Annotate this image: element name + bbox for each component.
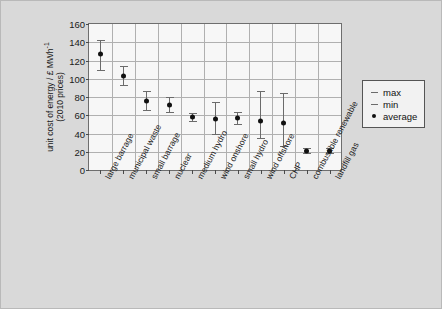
x-tick-mark	[330, 170, 331, 174]
y-tick-mark	[86, 24, 89, 25]
x-tick-mark	[100, 170, 101, 174]
error-bar-cap-min	[143, 110, 151, 111]
error-bar-cap-min	[189, 121, 197, 122]
legend: maxminaverage	[362, 80, 425, 128]
y-tick-label: 60	[74, 110, 85, 121]
legend-item: max	[368, 86, 417, 98]
average-marker	[213, 116, 218, 121]
y-tick-label: 40	[74, 128, 85, 139]
y-tick-mark	[86, 152, 89, 153]
x-tick-mark	[284, 170, 285, 174]
average-marker	[235, 115, 240, 120]
error-bar	[260, 91, 261, 138]
x-tick-mark	[261, 170, 262, 174]
y-tick-label: 160	[69, 19, 85, 30]
average-marker	[281, 121, 286, 126]
error-bar-cap-min	[97, 70, 105, 71]
error-bar-cap-max	[143, 91, 151, 92]
legend-label: min	[383, 99, 398, 110]
legend-label: average	[383, 111, 417, 122]
average-marker	[167, 103, 172, 108]
y-axis-title-exponent: -1	[43, 42, 50, 48]
x-tick-mark	[123, 170, 124, 174]
x-tick-mark	[307, 170, 308, 174]
legend-item: min	[368, 98, 417, 110]
error-bar-cap-max	[280, 93, 288, 94]
x-tick-mark	[215, 170, 216, 174]
average-marker	[144, 98, 149, 103]
x-tick-mark	[146, 170, 147, 174]
y-axis-title-line1: unit cost of energy / £ MWh	[45, 48, 55, 151]
y-axis-title: unit cost of energy / £ MWh-1 (2010 pric…	[43, 22, 66, 172]
error-bar-cap-max	[212, 102, 220, 103]
y-tick-label: 120	[69, 55, 85, 66]
error-bar-cap-max	[97, 40, 105, 41]
error-bar-cap-min	[166, 112, 174, 113]
error-bar-cap-max	[166, 97, 174, 98]
y-tick-mark	[86, 134, 89, 135]
y-tick-label: 100	[69, 73, 85, 84]
y-tick-mark	[86, 115, 89, 116]
y-tick-label: 20	[74, 146, 85, 157]
y-tick-label: 140	[69, 37, 85, 48]
average-marker	[121, 74, 126, 79]
y-tick-label: 80	[74, 92, 85, 103]
y-axis-title-line2: (2010 prices)	[56, 72, 66, 122]
legend-item: average	[368, 110, 417, 122]
y-tick-label: 0	[80, 165, 85, 176]
y-tick-mark	[86, 170, 89, 171]
y-tick-mark	[86, 61, 89, 62]
plot-area: unit cost of energy / £ MWh-1 (2010 pric…	[88, 23, 342, 171]
x-tick-mark	[238, 170, 239, 174]
y-tick-mark	[86, 97, 89, 98]
average-marker	[98, 52, 103, 57]
error-bar-cap-max	[257, 91, 265, 92]
dash-icon	[368, 92, 380, 93]
x-tick-mark	[169, 170, 170, 174]
average-marker	[258, 118, 263, 123]
dot-icon	[368, 114, 380, 118]
dash-icon	[368, 104, 380, 105]
average-marker	[304, 148, 309, 153]
error-bar-cap-max	[234, 112, 242, 113]
x-tick-mark	[192, 170, 193, 174]
y-tick-mark	[86, 79, 89, 80]
error-bar-cap-min	[120, 85, 128, 86]
error-bar-cap-min	[234, 124, 242, 125]
chart-figure: unit cost of energy / £ MWh-1 (2010 pric…	[0, 0, 442, 309]
error-bar-cap-max	[120, 66, 128, 67]
average-marker	[190, 115, 195, 120]
legend-label: max	[383, 87, 401, 98]
y-tick-mark	[86, 42, 89, 43]
